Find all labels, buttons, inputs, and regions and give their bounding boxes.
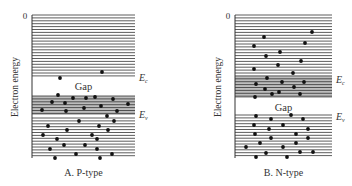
n-type-panel: 0Electron energyGapEcEvB. N-type xyxy=(213,11,345,178)
shaded-band xyxy=(235,76,332,98)
panel-caption: A. P-type xyxy=(64,167,103,178)
zero-label: 0 xyxy=(226,11,231,21)
p-type-panel: 0Electron energyGapEcEvA. P-type xyxy=(10,11,148,178)
y-axis-label: Electron energy xyxy=(213,57,223,117)
gap-label: Gap xyxy=(75,81,93,92)
ec-label: Ec xyxy=(335,74,345,86)
panel-caption: B. N-type xyxy=(264,167,304,178)
ev-label: Ev xyxy=(335,111,345,123)
ev-label: Ev xyxy=(138,109,148,121)
band-diagram-figure: 0Electron energyGapEcEvA. P-type0Electro… xyxy=(0,0,352,186)
y-axis-label: Electron energy xyxy=(10,57,20,117)
zero-label: 0 xyxy=(23,11,28,21)
ec-label: Ec xyxy=(138,72,148,84)
gap-label: Gap xyxy=(275,102,293,113)
